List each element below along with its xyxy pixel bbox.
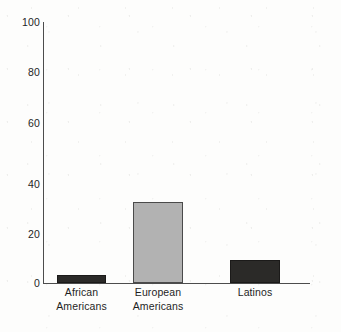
- x-axis-line: [43, 283, 310, 284]
- x-label-african-americans: African Americans: [42, 286, 121, 313]
- x-label-european-americans: European Americans: [118, 286, 198, 313]
- bar-african-americans: [57, 275, 106, 283]
- x-label-european-americans-line1: European: [118, 286, 198, 300]
- x-label-african-americans-line1: African: [42, 286, 121, 300]
- x-label-african-americans-line2: Americans: [42, 300, 121, 314]
- x-label-latinos-line1: Latinos: [215, 286, 295, 300]
- bar-chart-figure: 100 80 60 40 20 0 African Americans Euro…: [0, 0, 341, 332]
- y-tick-label-100: 100: [4, 17, 40, 27]
- y-tick-label-60: 60: [4, 118, 40, 128]
- plot-area: [44, 22, 310, 283]
- x-label-latinos: Latinos: [215, 286, 295, 300]
- y-tick-label-20: 20: [4, 229, 40, 239]
- y-tick-label-80: 80: [4, 67, 40, 77]
- x-axis-category-labels: African Americans European Americans Lat…: [44, 286, 310, 330]
- bar-european-americans: [133, 202, 183, 283]
- x-label-european-americans-line2: Americans: [118, 300, 198, 314]
- bar-latinos: [230, 260, 280, 283]
- y-tick-label-0: 0: [4, 278, 40, 288]
- y-tick-label-40: 40: [4, 179, 40, 189]
- y-axis-tick-labels: 100 80 60 40 20 0: [0, 0, 40, 332]
